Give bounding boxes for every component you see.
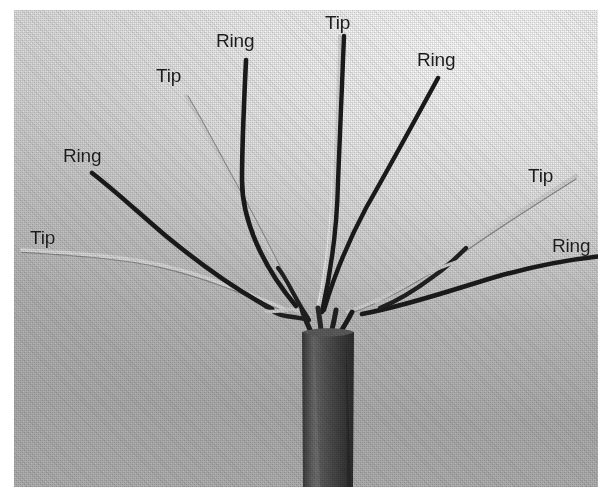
wire-tip-pair1-edge [22, 252, 286, 312]
label-ring-midleft: Ring [216, 31, 254, 50]
label-ring-left: Ring [63, 146, 101, 165]
photo-plate [14, 10, 598, 487]
cable-illustration [14, 10, 598, 487]
label-tip-center: Tip [325, 13, 350, 32]
label-tip-midleft: Tip [156, 66, 181, 85]
wire-ring-pair4 [362, 256, 598, 314]
wire-tip-pair1 [22, 250, 286, 310]
cable-jacket [302, 328, 354, 487]
wire-tip-pair4 [348, 176, 576, 312]
cable-pair-figure: Tip Ring Tip Ring Tip Ring Tip Ring [0, 0, 615, 502]
label-tip-right: Tip [528, 166, 553, 185]
wire-ring-pair2 [242, 60, 296, 306]
label-ring-right: Ring [552, 236, 590, 255]
label-ring-midright: Ring [417, 50, 455, 69]
label-tip-left: Tip [30, 228, 55, 247]
